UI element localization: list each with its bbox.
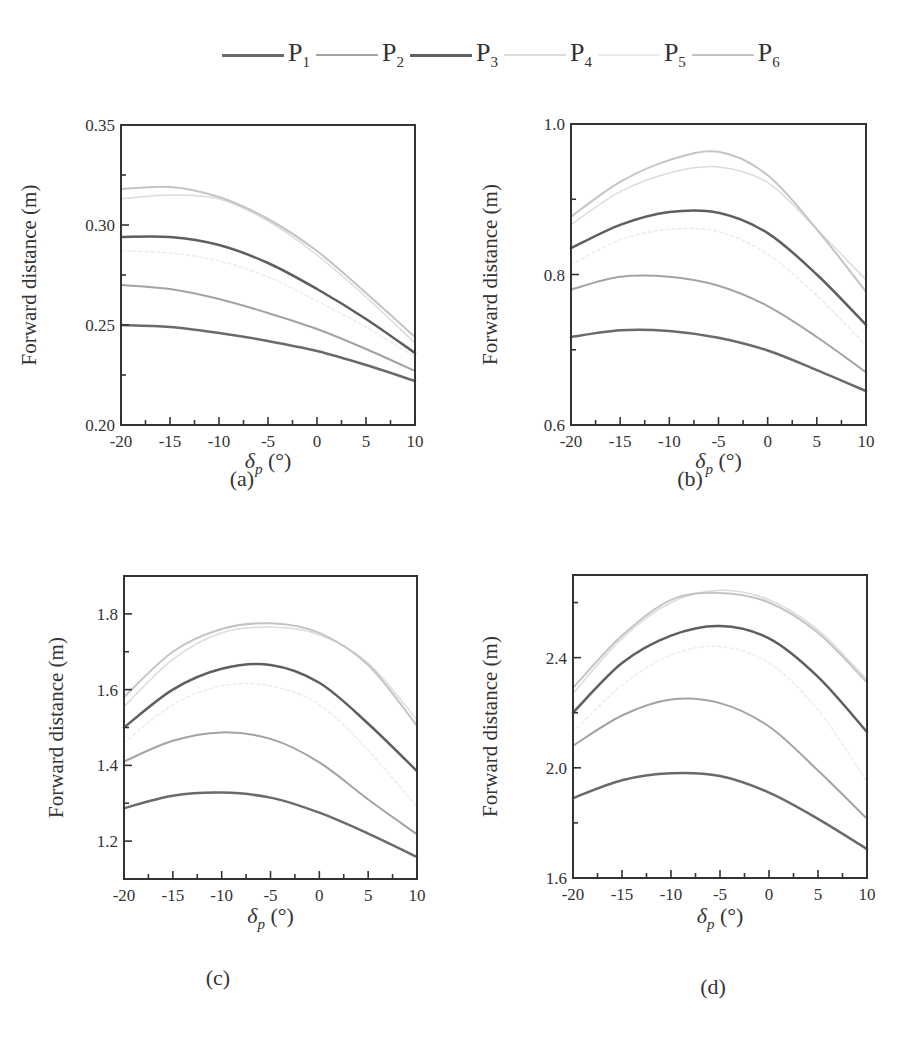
y-tick-label: 1.2 bbox=[97, 832, 118, 851]
x-tick-label: 10 bbox=[859, 885, 876, 904]
series-line-p3 bbox=[121, 236, 415, 353]
series-line-p6 bbox=[571, 151, 866, 292]
y-tick-label: 1.8 bbox=[97, 605, 118, 624]
x-tick-label: 0 bbox=[763, 432, 772, 451]
x-tick-label: -15 bbox=[609, 432, 632, 451]
y-axis-label: Forward distance (m) bbox=[478, 184, 502, 365]
x-tick-label: 10 bbox=[407, 432, 424, 451]
series-line-p1 bbox=[121, 325, 415, 381]
y-axis-label: Forward distance (m) bbox=[17, 185, 41, 366]
y-tick-label: 2.4 bbox=[546, 649, 568, 668]
x-tick-label: -10 bbox=[210, 886, 233, 905]
y-tick-label: 0.30 bbox=[85, 216, 115, 235]
y-tick-label: 1.6 bbox=[546, 869, 567, 888]
x-tick-label: 0 bbox=[313, 432, 322, 451]
panel-caption: (d) bbox=[700, 974, 726, 999]
series-line-p2 bbox=[571, 275, 866, 372]
panel-b: -20-15-10-505100.60.81.0Forward distance… bbox=[478, 115, 875, 491]
x-tick-label: 0 bbox=[765, 885, 774, 904]
panel-caption: (a) bbox=[230, 466, 254, 491]
series-line-p5 bbox=[124, 683, 417, 807]
x-tick-label: 10 bbox=[858, 432, 875, 451]
y-tick-label: 1.4 bbox=[97, 756, 119, 775]
series-line-p4 bbox=[124, 627, 417, 720]
x-tick-label: 5 bbox=[814, 885, 823, 904]
x-axis-label: δp (°) bbox=[697, 903, 744, 932]
x-tick-label: -15 bbox=[159, 432, 182, 451]
y-tick-label: 0.20 bbox=[85, 416, 115, 435]
plot-frame bbox=[571, 124, 866, 425]
series-line-p3 bbox=[571, 210, 866, 325]
x-axis-label: δp (°) bbox=[247, 903, 294, 932]
series-line-p2 bbox=[124, 732, 417, 834]
series-line-p2 bbox=[573, 698, 867, 818]
series-line-p1 bbox=[573, 773, 867, 849]
series-line-p6 bbox=[124, 623, 417, 725]
y-tick-label: 0.6 bbox=[544, 416, 565, 435]
x-tick-label: 5 bbox=[362, 432, 371, 451]
x-tick-label: -10 bbox=[208, 432, 231, 451]
x-tick-label: -15 bbox=[161, 886, 184, 905]
x-tick-label: -5 bbox=[713, 885, 727, 904]
y-tick-label: 0.35 bbox=[85, 116, 115, 135]
y-tick-label: 1.6 bbox=[97, 681, 118, 700]
plot-frame bbox=[573, 575, 867, 878]
panel-c: -20-15-10-505101.21.41.61.8Forward dista… bbox=[44, 576, 426, 990]
x-tick-label: 5 bbox=[364, 886, 373, 905]
x-tick-label: 10 bbox=[409, 886, 426, 905]
panel-a: -20-15-10-505100.200.250.300.35Forward d… bbox=[17, 116, 424, 491]
panel-d: -20-15-10-505101.62.02.4Forward distance… bbox=[478, 575, 876, 999]
series-line-p4 bbox=[571, 167, 866, 280]
x-tick-label: -10 bbox=[658, 432, 681, 451]
x-tick-label: 0 bbox=[315, 886, 324, 905]
x-tick-label: -15 bbox=[611, 885, 634, 904]
plot-frame bbox=[121, 125, 415, 425]
series-line-p4 bbox=[573, 590, 867, 693]
panel-caption: (c) bbox=[206, 965, 230, 990]
series-line-p1 bbox=[571, 330, 866, 391]
series-line-p6 bbox=[573, 593, 867, 688]
x-tick-label: 5 bbox=[813, 432, 822, 451]
y-tick-label: 0.8 bbox=[544, 266, 565, 285]
series-line-p3 bbox=[573, 626, 867, 732]
y-tick-label: 2.0 bbox=[546, 759, 567, 778]
y-tick-label: 0.25 bbox=[85, 316, 115, 335]
y-tick-label: 1.0 bbox=[544, 115, 565, 134]
y-axis-label: Forward distance (m) bbox=[44, 637, 68, 818]
chart-canvas: -20-15-10-505100.200.250.300.35Forward d… bbox=[0, 0, 917, 1048]
panel-caption: (b) bbox=[677, 466, 703, 491]
y-axis-label: Forward distance (m) bbox=[478, 636, 502, 817]
x-tick-label: -10 bbox=[660, 885, 683, 904]
x-tick-label: -20 bbox=[113, 886, 136, 905]
